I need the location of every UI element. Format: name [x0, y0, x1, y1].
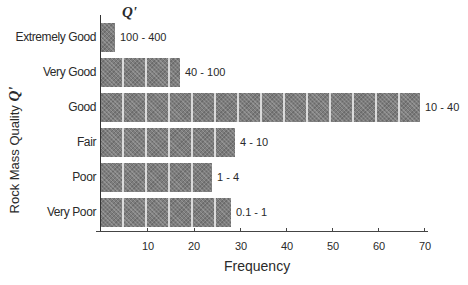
x-tick-label: 40	[281, 240, 293, 252]
x-tick	[378, 228, 379, 232]
x-tick-label: 70	[419, 240, 431, 252]
x-tick	[424, 228, 425, 232]
bar-poor	[101, 163, 212, 192]
y-axis-label-symbol: Q'	[6, 87, 22, 102]
category-label-poor: Poor	[72, 170, 96, 184]
category-label-good: Good	[68, 100, 96, 114]
x-tick	[147, 228, 148, 232]
x-tick-label: 30	[235, 240, 247, 252]
x-tick-label: 10	[142, 240, 154, 252]
q-range-extremely-good: 100 - 400	[120, 31, 166, 43]
y-axis-label-text: Rock Mass Quality	[7, 102, 22, 214]
bar-very-good	[101, 58, 180, 87]
x-tick-label: 20	[188, 240, 200, 252]
q-range-good: 10 - 40	[425, 101, 459, 113]
category-label-extremely-good: Extremely Good	[16, 30, 96, 44]
bar-extremely-good	[101, 23, 115, 52]
q-prime-header: Q'	[122, 4, 137, 21]
x-tick	[332, 228, 333, 232]
q-range-very-good: 40 - 100	[185, 66, 225, 78]
q-range-fair: 4 - 10	[240, 136, 268, 148]
x-tick	[240, 228, 241, 232]
rock-mass-quality-chart: Q' Rock Mass Quality Q' Extremely Good 1…	[0, 0, 468, 285]
x-tick	[286, 228, 287, 232]
x-axis-label: Frequency	[224, 258, 290, 274]
bar-very-poor	[101, 198, 231, 227]
q-range-very-poor: 0.1 - 1	[236, 206, 267, 218]
bar-fair	[101, 128, 235, 157]
category-label-fair: Fair	[77, 135, 96, 149]
y-axis-label: Rock Mass Quality Q'	[6, 87, 23, 214]
x-tick-label: 60	[373, 240, 385, 252]
q-range-poor: 1 - 4	[217, 171, 239, 183]
category-label-very-good: Very Good	[43, 65, 96, 79]
x-tick-label: 50	[327, 240, 339, 252]
bar-good	[101, 93, 420, 122]
x-tick	[194, 228, 195, 232]
category-label-very-poor: Very Poor	[47, 205, 96, 219]
